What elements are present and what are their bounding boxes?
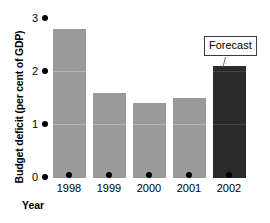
- bar-2001: [173, 98, 206, 178]
- x-tick-dot-icon: [226, 172, 232, 178]
- y-tick-label-2: 2: [32, 65, 38, 77]
- y-tick-label-3: 3: [32, 12, 38, 24]
- x-tick-dot-icon: [66, 172, 72, 178]
- bar-chart: Budget deficit (per cent of GDP) 3 2 1 0: [0, 0, 270, 223]
- x-tick-dot-icon: [106, 172, 112, 178]
- x-axis-label-1998: 1998: [49, 182, 89, 194]
- x-tick-dot-icon: [186, 172, 192, 178]
- x-tick-dot-icon: [146, 172, 152, 178]
- y-tick-dot-icon: [42, 15, 48, 21]
- x-axis-label-2002: 2002: [209, 182, 249, 194]
- bar-1998: [53, 29, 86, 178]
- x-axis-label-2000: 2000: [129, 182, 169, 194]
- y-tick-0: 0: [18, 171, 48, 183]
- y-tick-2: 2: [18, 65, 48, 77]
- y-tick-3: 3: [18, 12, 48, 24]
- x-axis-label-2001: 2001: [169, 182, 209, 194]
- forecast-annotation-label: Forecast: [204, 36, 257, 56]
- y-axis-title: Budget deficit (per cent of GDP): [13, 27, 25, 187]
- y-tick-dot-icon: [42, 68, 48, 74]
- y-tick-dot-icon: [42, 121, 48, 127]
- bar-1999: [93, 93, 126, 178]
- bar-2000: [133, 103, 166, 178]
- bar-2002-forecast: [213, 66, 246, 178]
- y-tick-label-1: 1: [32, 118, 38, 130]
- x-axis-label-1999: 1999: [89, 182, 129, 194]
- x-axis-title: Year: [22, 199, 44, 211]
- y-tick-dot-icon: [42, 174, 48, 180]
- y-tick-1: 1: [18, 118, 48, 130]
- y-tick-label-0: 0: [32, 171, 38, 183]
